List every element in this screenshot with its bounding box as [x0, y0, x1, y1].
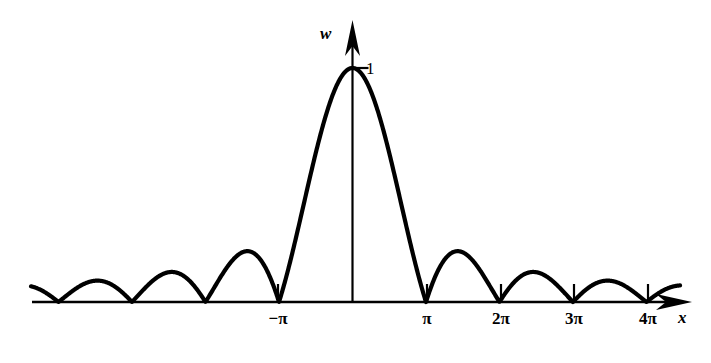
x-axis-name-label: x [678, 309, 687, 326]
x-tick-label-3pi: 3π [565, 310, 583, 327]
sinc-function-figure: w 1 −π π 2π 3π 4π x [0, 0, 711, 363]
y-axis-group [345, 20, 360, 302]
x-tick-label-2pi: 2π [492, 310, 510, 327]
x-tick-label-minus-pi: −π [268, 310, 287, 327]
sinc-curve [31, 68, 680, 302]
x-tick-label-4pi: 4π [639, 310, 657, 327]
plot-canvas [0, 0, 711, 363]
y-tick-label-1: 1 [366, 60, 375, 77]
x-tick-label-pi: π [422, 310, 431, 327]
y-axis-name-label: w [320, 25, 331, 42]
